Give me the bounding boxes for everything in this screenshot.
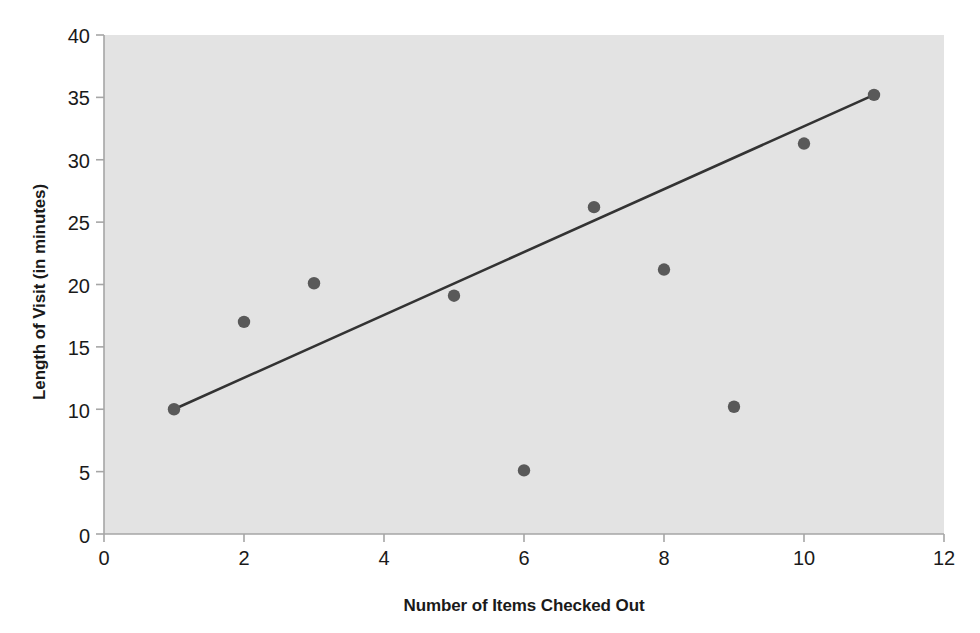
data-point (238, 316, 250, 328)
x-axis-ticks (104, 534, 944, 542)
data-point (868, 89, 880, 101)
data-point (168, 403, 180, 415)
plot-area (0, 0, 980, 633)
data-point (658, 263, 670, 275)
y-axis-ticks (96, 35, 104, 534)
data-point (448, 290, 460, 302)
data-point (308, 277, 320, 289)
scatter-chart: Length of Visit (in minutes) 40 35 30 25… (0, 0, 980, 633)
data-point (728, 401, 740, 413)
data-point (588, 201, 600, 213)
data-point (518, 464, 530, 476)
plot-background (104, 35, 944, 534)
data-point (798, 137, 810, 149)
